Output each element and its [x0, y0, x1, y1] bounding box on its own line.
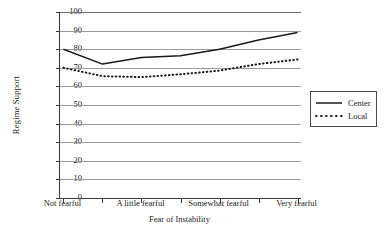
- legend-swatch-solid-icon: [315, 98, 343, 108]
- series-lines: [60, 12, 301, 198]
- y-axis-title: Regime Support: [11, 35, 21, 175]
- x-tick-label: Very fearful: [276, 198, 317, 208]
- x-tick-mark: [259, 198, 260, 203]
- x-tick-mark: [102, 198, 103, 203]
- x-tick-mark: [181, 198, 182, 203]
- x-tick-label: Not fearful: [44, 198, 82, 208]
- plot-area: [59, 12, 301, 199]
- legend-item-center: Center: [315, 96, 371, 109]
- series-line-center: [63, 32, 297, 64]
- chart-legend: CenterLocal: [310, 91, 377, 127]
- legend-label: Local: [348, 111, 367, 121]
- legend-item-local: Local: [315, 109, 371, 122]
- x-tick-label: A little fearful: [116, 198, 164, 208]
- x-tick-label: Somewhat fearful: [188, 198, 249, 208]
- x-axis-title: Fear of Instability: [59, 214, 300, 224]
- line-chart-figure: Regime Support 1009080706050403020100 No…: [0, 0, 385, 249]
- legend-swatch-dotted-icon: [315, 111, 343, 121]
- legend-label: Center: [348, 98, 371, 108]
